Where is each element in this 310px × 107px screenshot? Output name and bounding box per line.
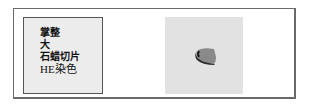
specimen-label-card: 掌整 大 石蜡切片 HE染色	[23, 17, 103, 94]
label-line-4-text: HE染色	[40, 63, 77, 75]
label-line-2: 大	[40, 39, 102, 51]
label-line-4: HE染色	[40, 63, 102, 76]
label-line-3: 石蜡切片	[40, 51, 102, 63]
tissue-specimen-icon	[194, 47, 220, 67]
specimen-photo	[165, 17, 243, 94]
label-line-1: 掌整	[40, 27, 102, 39]
